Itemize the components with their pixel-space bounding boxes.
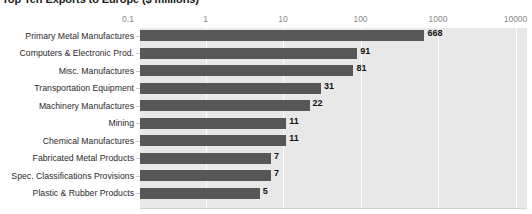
y-axis-category-labels: Primary Metal ManufacturesComputers & El… [0, 28, 134, 209]
bar-value-label: 81 [356, 63, 366, 73]
chart-title: Top Ten Exports to Europe ($ millions) [2, 0, 199, 5]
bar-value-label: 668 [427, 28, 442, 38]
bar [140, 83, 321, 94]
bar-row: 668 [140, 30, 527, 41]
bar [140, 118, 286, 129]
bar-row: 31 [140, 83, 527, 94]
bar [140, 48, 357, 59]
bar-chart: Top Ten Exports to Europe ($ millions) 0… [0, 0, 532, 214]
x-axis-tick-1: 1 [203, 14, 208, 24]
x-axis-tick-100: 100 [353, 14, 367, 24]
bar-value-label: 7 [274, 151, 279, 161]
bar [140, 135, 286, 146]
x-axis-tick-10000: 10000 [504, 14, 528, 24]
category-label: Spec. Classifications Provisions [0, 171, 134, 181]
bar-value-label: 5 [263, 186, 268, 196]
category-label: Fabricated Metal Products [0, 153, 134, 163]
bar-row: 11 [140, 135, 527, 146]
category-label: Misc. Manufactures [0, 66, 134, 76]
bar [140, 65, 353, 76]
bar-row: 91 [140, 48, 527, 59]
bar-row: 5 [140, 188, 527, 199]
bar-row: 11 [140, 118, 527, 129]
bar [140, 153, 271, 164]
category-label: Machinery Manufactures [0, 101, 134, 111]
category-label: Mining [0, 118, 134, 128]
x-axis-tick-0.1: 0.1 [122, 14, 134, 24]
bar-row: 22 [140, 100, 527, 111]
bar-row: 7 [140, 170, 527, 181]
plot-area: 668918131221111775 [140, 28, 527, 209]
x-axis-tick-labels: 0.1110100100010000 [0, 14, 532, 26]
bar-row: 7 [140, 153, 527, 164]
category-label: Primary Metal Manufactures [0, 31, 134, 41]
category-label: Chemical Manufactures [0, 136, 134, 146]
bar [140, 30, 424, 41]
bar [140, 170, 271, 181]
category-label: Plastic & Rubber Products [0, 188, 134, 198]
bar-value-label: 11 [289, 116, 299, 126]
bar [140, 100, 310, 111]
bar-value-label: 31 [324, 81, 334, 91]
bar-value-label: 22 [313, 98, 323, 108]
bar-value-label: 91 [360, 46, 370, 56]
category-label: Transportation Equipment [0, 83, 134, 93]
x-axis-tick-10: 10 [278, 14, 287, 24]
bar-row: 81 [140, 65, 527, 76]
bar-value-label: 7 [274, 168, 279, 178]
category-label: Computers & Electronic Prod. [0, 48, 134, 58]
bar [140, 188, 260, 199]
bar-value-label: 11 [289, 133, 299, 143]
x-axis-tick-1000: 1000 [429, 14, 448, 24]
